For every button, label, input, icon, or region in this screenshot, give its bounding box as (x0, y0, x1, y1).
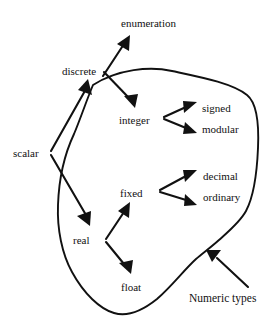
node-label-fixed: fixed (120, 187, 143, 199)
node-label-signed: signed (202, 102, 231, 114)
arrowhead-integer (124, 94, 138, 108)
edge-fixed-to-decimal (160, 176, 186, 190)
node-label-float: float (121, 281, 141, 293)
edge-scalar-to-real (51, 155, 86, 215)
edge-scalar-to-discrete (51, 89, 86, 151)
numeric-types-diagram: enumeration discrete integer signed modu… (0, 0, 280, 331)
region-label-numeric-types: Numeric types (189, 292, 256, 304)
arrowhead-enumeration (117, 35, 130, 51)
arrowhead-fixed (118, 202, 130, 218)
edge-discrete-to-enumeration (103, 44, 124, 76)
arrowhead-modular (183, 122, 197, 134)
node-label-enumeration: enumeration (121, 17, 176, 29)
arrowhead-decimal (183, 170, 197, 182)
edge-real-to-float (106, 242, 124, 264)
edge-integer-to-signed (164, 107, 186, 117)
node-label-discrete: discrete (62, 65, 96, 77)
edge-discrete-to-integer (104, 72, 129, 98)
node-label-scalar: scalar (13, 147, 39, 159)
node-label-modular: modular (202, 123, 239, 135)
edge-real-to-fixed (106, 212, 124, 239)
node-label-decimal: decimal (203, 170, 238, 182)
edge-numeric-types-callout (217, 258, 248, 287)
arrowhead-signed (183, 101, 197, 113)
node-label-integer: integer (119, 114, 150, 126)
arrowhead-ordinary (184, 194, 197, 206)
node-label-real: real (73, 234, 89, 246)
node-label-ordinary: ordinary (203, 191, 240, 203)
edge-integer-to-modular (164, 119, 186, 128)
edge-fixed-to-ordinary (160, 192, 186, 200)
